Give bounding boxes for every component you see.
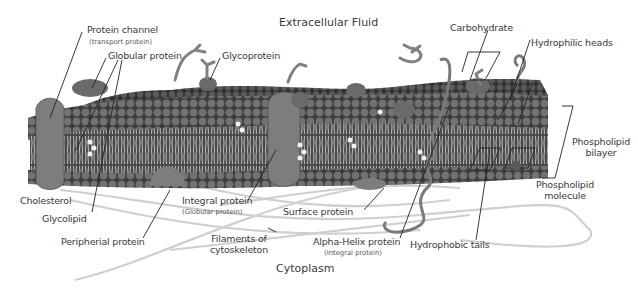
protein-channel-label: Protein channel <box>87 24 158 35</box>
glycoprotein-label: Glycoprotein <box>222 50 280 61</box>
surface-protein-label: Surface protein <box>283 206 353 217</box>
integral-protein-label: Integral protein <box>182 195 252 206</box>
phospholipid-molecule-label: Phospholipid molecule <box>530 179 600 201</box>
cell-membrane-diagram: Extracellular Fluid Cytoplasm Protein ch… <box>0 0 638 290</box>
phospholipid-head <box>511 161 521 171</box>
globular-protein-label: Globular protein <box>108 50 182 61</box>
peripheral-protein-label: Peripherial protein <box>61 236 145 247</box>
hydrophilic-heads-label: Hydrophilic heads <box>531 37 613 48</box>
carbohydrate-label: Carbohydrate <box>450 22 513 33</box>
alpha-helix-label: Alpha-Helix protein <box>313 236 400 247</box>
cholesterol-label: Cholesterol <box>20 195 71 206</box>
protein-channel-sublabel: (transport protein) <box>89 38 152 46</box>
hydrophobic-tails-label: Hydrophobic tails <box>410 239 489 250</box>
filaments-label: Filaments of cytoskeleton <box>206 233 272 255</box>
extracellular-fluid-label: Extracellular Fluid <box>279 16 378 29</box>
cytoplasm-label: Cytoplasm <box>276 262 334 275</box>
glycolipid-label: Glycolipid <box>42 213 87 224</box>
alpha-helix-sublabel: (Integral protein) <box>324 249 382 257</box>
phospholipid-bilayer-label: Phospholipid bilayer <box>566 136 636 158</box>
protein-channel <box>36 98 64 189</box>
integral-protein-sublabel: (Globular protein) <box>182 208 242 216</box>
